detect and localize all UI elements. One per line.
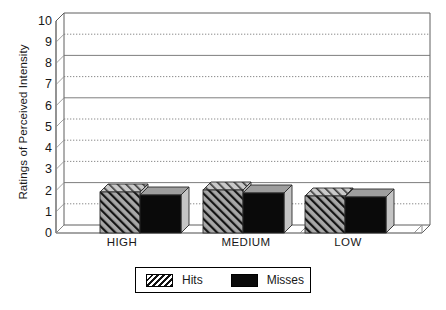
legend-label-misses: Misses <box>267 273 304 287</box>
plot-area <box>0 0 446 310</box>
legend-label-hits: Hits <box>182 273 203 287</box>
bar-medium-misses <box>243 185 292 233</box>
bar-high-misses <box>140 187 189 233</box>
bar-chart-figure: Ratings of Perceived Intensity 10 9 8 7 … <box>0 0 446 310</box>
legend-item-hits: Hits <box>146 273 203 287</box>
legend-item-misses: Misses <box>231 273 304 287</box>
chart-legend: Hits Misses <box>135 267 311 293</box>
black-swatch-icon <box>231 274 258 287</box>
x-tick-medium: MEDIUM <box>221 236 270 248</box>
hatch-swatch-icon <box>146 274 173 287</box>
x-tick-high: HIGH <box>107 236 137 248</box>
bar-low-misses <box>345 189 394 233</box>
x-tick-low: LOW <box>334 236 361 248</box>
